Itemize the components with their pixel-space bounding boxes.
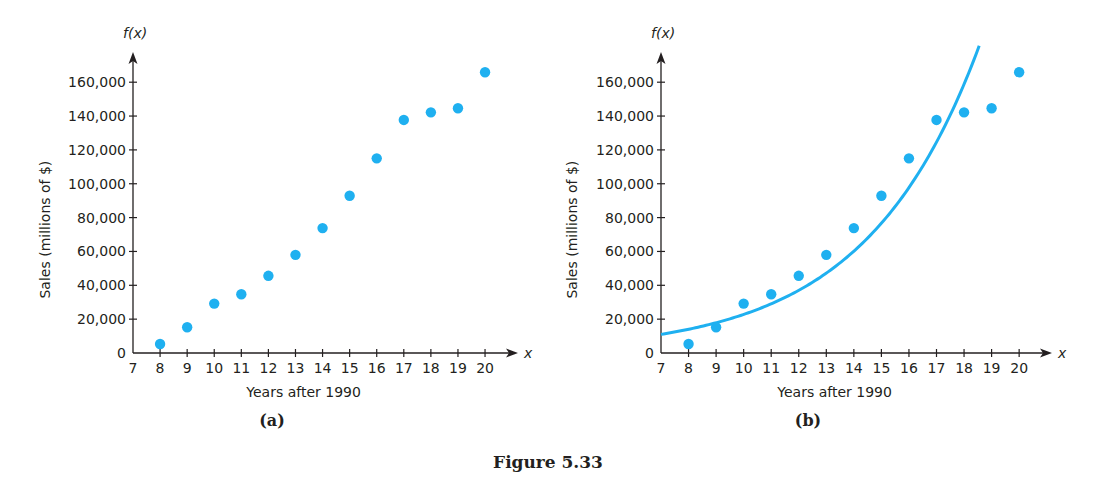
x-tick-label: 8	[156, 360, 165, 376]
y-tick-label: 40,000	[77, 277, 126, 293]
y-axis-symbol: f(x)	[123, 25, 147, 41]
y-tick-label: 120,000	[596, 142, 654, 158]
y-tick-label: 120,000	[68, 142, 126, 158]
figure-canvas: f(x)x7891011121314151617181920020,00040,…	[0, 0, 1097, 503]
y-tick-label: 20,000	[77, 311, 126, 327]
x-tick-label: 19	[983, 360, 1001, 376]
x-tick-label: 15	[872, 360, 890, 376]
y-tick-label: 0	[117, 345, 126, 361]
y-tick-label: 140,000	[68, 108, 126, 124]
data-point	[794, 271, 804, 281]
x-tick-label: 17	[928, 360, 946, 376]
x-tick-label: 11	[762, 360, 780, 376]
data-point	[1014, 67, 1024, 77]
y-axis-symbol: f(x)	[651, 25, 675, 41]
y-tick-label: 140,000	[596, 108, 654, 124]
y-tick-label: 80,000	[605, 210, 654, 226]
data-point	[236, 289, 246, 299]
y-tick-label: 160,000	[596, 74, 654, 90]
data-point	[399, 115, 409, 125]
x-tick-label: 12	[790, 360, 808, 376]
data-point	[209, 298, 219, 308]
data-point	[711, 322, 721, 332]
x-tick-label: 16	[900, 360, 918, 376]
x-tick-label: 7	[657, 360, 666, 376]
data-point	[738, 298, 748, 308]
x-tick-label: 10	[735, 360, 753, 376]
data-point	[876, 191, 886, 201]
x-tick-label: 7	[129, 360, 138, 376]
data-point	[849, 223, 859, 233]
x-tick-label: 20	[476, 360, 494, 376]
y-axis-title: Sales (millions of $)	[37, 161, 53, 299]
data-point	[904, 153, 914, 163]
x-tick-label: 8	[684, 360, 693, 376]
chart-panel-a: f(x)x7891011121314151617181920020,00040,…	[37, 25, 533, 430]
data-point	[344, 191, 354, 201]
figure-caption: Figure 5.33	[493, 452, 603, 472]
data-point	[480, 67, 490, 77]
data-point	[986, 103, 996, 113]
figure: f(x)x7891011121314151617181920020,00040,…	[0, 0, 1097, 503]
x-tick-label: 18	[955, 360, 973, 376]
x-tick-label: 19	[449, 360, 467, 376]
data-point	[821, 250, 831, 260]
y-tick-label: 80,000	[77, 210, 126, 226]
y-tick-label: 160,000	[68, 74, 126, 90]
data-point	[263, 271, 273, 281]
data-point	[683, 339, 693, 349]
x-tick-label: 13	[817, 360, 835, 376]
data-point	[931, 115, 941, 125]
x-tick-label: 14	[845, 360, 863, 376]
x-tick-label: 17	[395, 360, 413, 376]
y-tick-label: 60,000	[77, 243, 126, 259]
panel-label: (b)	[795, 411, 821, 430]
y-tick-label: 60,000	[605, 243, 654, 259]
x-tick-label: 15	[341, 360, 359, 376]
y-axis-title: Sales (millions of $)	[564, 161, 580, 299]
y-tick-label: 20,000	[605, 311, 654, 327]
x-tick-label: 16	[368, 360, 386, 376]
x-axis-symbol: x	[523, 345, 533, 361]
x-tick-label: 10	[205, 360, 223, 376]
data-point	[290, 250, 300, 260]
x-axis-title: Years after 1990	[245, 384, 361, 400]
x-tick-label: 9	[183, 360, 192, 376]
data-point	[766, 289, 776, 299]
data-point	[317, 223, 327, 233]
panel-label: (a)	[259, 411, 285, 430]
x-tick-label: 20	[1010, 360, 1028, 376]
exponential-fit-curve	[661, 46, 979, 335]
x-tick-label: 9	[712, 360, 721, 376]
x-tick-label: 18	[422, 360, 440, 376]
y-tick-label: 100,000	[68, 176, 126, 192]
chart-panel-b: f(x)x7891011121314151617181920020,00040,…	[564, 25, 1067, 430]
x-axis-symbol: x	[1057, 345, 1067, 361]
y-tick-label: 40,000	[605, 277, 654, 293]
data-point	[155, 339, 165, 349]
x-tick-label: 14	[314, 360, 332, 376]
x-tick-label: 12	[259, 360, 277, 376]
data-point	[453, 103, 463, 113]
x-axis-title: Years after 1990	[776, 384, 892, 400]
data-point	[372, 153, 382, 163]
x-tick-label: 13	[287, 360, 305, 376]
x-tick-label: 11	[232, 360, 250, 376]
y-tick-label: 100,000	[596, 176, 654, 192]
data-point	[959, 107, 969, 117]
data-point	[182, 322, 192, 332]
data-point	[426, 107, 436, 117]
y-tick-label: 0	[645, 345, 654, 361]
